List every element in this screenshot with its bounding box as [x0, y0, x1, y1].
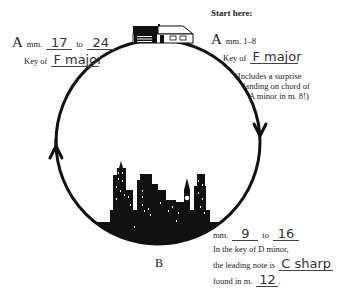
to-measure-field[interactable]: 24: [87, 37, 115, 50]
surprise-note: (Includes a surprise landing on chord of…: [235, 71, 310, 101]
to-label: to: [76, 39, 83, 49]
key-prefix: Key of: [223, 53, 246, 63]
key-statement: In the key of D minor,: [213, 242, 333, 256]
mm-label: mm.: [213, 230, 228, 240]
found-in-prefix: found in m.: [213, 276, 252, 286]
measure-number-field[interactable]: 12: [256, 274, 278, 287]
to-label: to: [262, 230, 269, 240]
to-measure-field[interactable]: 16: [273, 228, 299, 241]
mm-label: mm.: [27, 39, 42, 49]
section-b-details: mm. 9 to 16 In the key of D minor, the l…: [213, 226, 333, 288]
leading-note-prefix: the leading note is: [213, 260, 275, 270]
section-a-start: A mm. 1–8 Key of F major (Includes a sur…: [211, 30, 310, 101]
house-icon: [131, 24, 195, 43]
section-letter: A: [211, 31, 222, 47]
key-prefix: Key of: [24, 56, 47, 66]
from-measure-field[interactable]: 17: [46, 37, 72, 50]
start-here-label: Start here:: [211, 8, 253, 18]
key-answer-field[interactable]: F major: [51, 54, 99, 67]
from-measure-field[interactable]: 9: [232, 228, 258, 241]
section-letter: A: [12, 34, 23, 50]
section-b-letter: B: [155, 256, 163, 271]
leading-note-field[interactable]: C sharp: [279, 258, 333, 271]
key-answer-field[interactable]: F major: [250, 51, 298, 64]
measures-text: mm. 1–8: [226, 36, 256, 46]
section-a-return: A mm. 17 to 24 Key of F major: [12, 33, 115, 68]
